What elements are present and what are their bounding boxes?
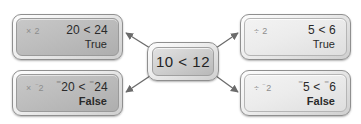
operation-label: × 2: [24, 26, 40, 36]
operation-label: ÷ ⁻2: [252, 81, 272, 93]
result-label: True: [24, 38, 111, 50]
expression-label: ⁻20 < ⁻24: [56, 78, 108, 94]
expression-label: 20 < 24: [66, 23, 108, 37]
branch-panel: ÷ ⁻2 ⁻5 < ⁻6 False: [244, 74, 347, 112]
branch-row-expression: × ⁻2 ⁻20 < ⁻24: [24, 78, 111, 94]
comparator: <: [78, 80, 85, 94]
expression-label: ⁻5 < ⁻6: [298, 78, 336, 94]
result-label: False: [252, 95, 339, 107]
operation-symbol: ×: [26, 83, 32, 93]
result-label: False: [24, 95, 111, 107]
expression-left: 20: [61, 80, 75, 94]
expression-right: 6: [329, 80, 336, 94]
branch-row-expression: ÷ 2 5 < 6: [252, 23, 339, 37]
center-expression: 10 < 12: [156, 53, 210, 70]
center-box: 10 < 12: [147, 42, 219, 81]
expression-label: 5 < 6: [308, 23, 336, 37]
branch-panel: × 2 20 < 24 True: [16, 18, 119, 56]
expression-right: 24: [94, 80, 108, 94]
operation-label: × ⁻2: [24, 81, 44, 93]
result-label: True: [252, 38, 339, 50]
branch-panel: ÷ 2 5 < 6 True: [244, 18, 347, 56]
operation-label: ÷ 2: [252, 26, 268, 36]
diagram-canvas: × 2 20 < 24 True × ⁻2 ⁻20 < ⁻24 False 10…: [0, 0, 361, 124]
branch-box-bottom-right: ÷ ⁻2 ⁻5 < ⁻6 False: [240, 70, 351, 116]
arrow-center-to-top-right: [216, 33, 238, 48]
arrow-center-to-bottom-left: [126, 76, 150, 92]
arrow-center-to-top-left: [126, 33, 150, 48]
branch-box-top-left: × 2 20 < 24 True: [12, 14, 123, 60]
operation-operand: 2: [39, 83, 44, 93]
branch-box-bottom-left: × ⁻2 ⁻20 < ⁻24 False: [12, 70, 123, 116]
branch-box-top-right: ÷ 2 5 < 6 True: [240, 14, 351, 60]
operation-operand: 2: [266, 83, 271, 93]
arrow-center-to-bottom-right: [216, 76, 238, 92]
operation-symbol: ÷: [254, 83, 259, 93]
comparator: <: [313, 80, 320, 94]
branch-row-expression: ÷ ⁻2 ⁻5 < ⁻6: [252, 78, 339, 94]
branch-row-expression: × 2 20 < 24: [24, 23, 111, 37]
branch-panel: × ⁻2 ⁻20 < ⁻24 False: [16, 74, 119, 112]
expression-left: 5: [303, 80, 310, 94]
center-panel: 10 < 12: [152, 47, 214, 76]
